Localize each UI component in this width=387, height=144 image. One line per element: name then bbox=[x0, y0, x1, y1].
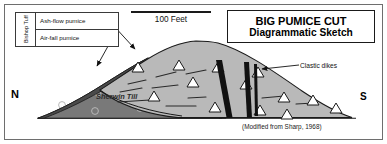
compass-label-south: S bbox=[360, 91, 367, 102]
sherwin-till-label: Sherwin Till bbox=[96, 92, 137, 101]
scale-label: 100 Feet bbox=[128, 15, 214, 24]
figure-title: BIG PUMICE CUT bbox=[255, 15, 346, 27]
compass-label-north: N bbox=[11, 88, 19, 100]
legend-box: Bishop Tuff Ash-flow pumice Air-fall pum… bbox=[15, 12, 119, 47]
title-box: BIG PUMICE CUT Diagrammatic Sketch bbox=[227, 10, 375, 43]
leader-clastic-dikes bbox=[262, 65, 299, 69]
scale-group: 100 Feet bbox=[128, 11, 214, 24]
figure-subtitle: Diagrammatic Sketch bbox=[249, 27, 353, 39]
scale-bar bbox=[131, 11, 211, 13]
figure-root: Bishop Tuff Ash-flow pumice Air-fall pum… bbox=[0, 0, 387, 144]
source-attribution: (Modified from Sharp, 1968) bbox=[242, 123, 322, 130]
legend-unit-cell: Bishop Tuff bbox=[16, 13, 36, 46]
legend-entry-label: Air-fall pumice bbox=[40, 34, 79, 41]
legend-entries: Ash-flow pumice Air-fall pumice bbox=[36, 13, 118, 46]
clastic-dikes-label: Clastic dikes bbox=[300, 62, 337, 69]
pumice-clast bbox=[330, 103, 342, 113]
legend-unit-label: Bishop Tuff bbox=[22, 16, 28, 44]
legend-entry-label: Ash-flow pumice bbox=[40, 17, 85, 24]
legend-entry-ash-flow-pumice: Ash-flow pumice bbox=[36, 13, 118, 30]
legend-entry-air-fall-pumice: Air-fall pumice bbox=[36, 30, 118, 47]
